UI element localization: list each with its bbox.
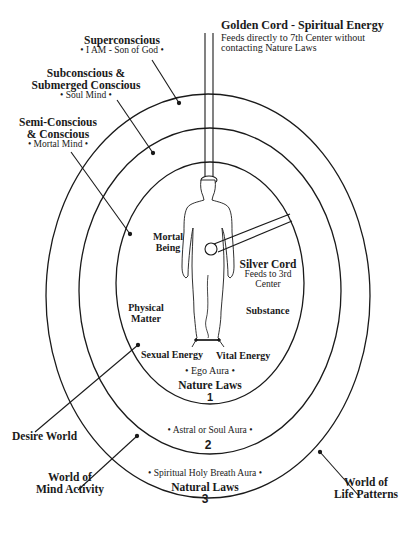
subconscious-label: Subconscious & Submerged Conscious • Sou… (22, 67, 150, 101)
vital-energy-label: Vital Energy (216, 351, 270, 362)
leader-desire-world (35, 345, 138, 432)
golden-cord-desc-2: contacting Nature Laws (221, 43, 384, 54)
nature-laws-label: Nature Laws (160, 379, 260, 391)
region-number-3: 3 (195, 493, 215, 506)
superconscious-label: Superconscious • I AM - Son of God • (60, 34, 184, 56)
golden-cord-title: Golden Cord - Spiritual Energy (221, 19, 384, 32)
golden-cord-label: Golden Cord - Spiritual Energy Feeds dir… (221, 19, 384, 54)
desire-world-label: Desire World (12, 430, 77, 442)
region-number-1: 1 (200, 392, 220, 404)
spiritual-aura-label: • Spiritual Holy Breath Aura • (135, 469, 275, 479)
semiconscious-title-1: Semi-Conscious (13, 116, 103, 128)
superconscious-sub: • I AM - Son of God • (60, 46, 184, 56)
semiconscious-label: Semi-Conscious & Conscious • Mortal Mind… (13, 116, 103, 150)
substance-label: Substance (246, 306, 289, 317)
world-life-patterns-label: World of Life Patterns (328, 476, 404, 500)
subconscious-title-1: Subconscious & (22, 67, 150, 79)
subconscious-sub: • Soul Mind • (22, 91, 150, 101)
ego-aura-label: • Ego Aura • (160, 366, 260, 377)
leader-semiconscious (71, 152, 130, 234)
leader-superconscious (152, 60, 179, 103)
sexual-energy-label: Sexual Energy (141, 350, 203, 361)
human-figure (182, 180, 234, 340)
silver-cord-label: Silver Cord Feeds to 3rd Center (236, 258, 300, 290)
physical-matter-label: Physical Matter (124, 303, 168, 324)
mortal-being-label: Mortal Being (146, 232, 190, 253)
region-number-2: 2 (198, 439, 218, 452)
world-mind-activity-label: World of Mind Activity (30, 471, 110, 495)
semiconscious-sub: • Mortal Mind • (13, 140, 103, 150)
golden-cord (201, 33, 217, 184)
astral-aura-label: • Astral or Soul Aura • (150, 426, 270, 436)
